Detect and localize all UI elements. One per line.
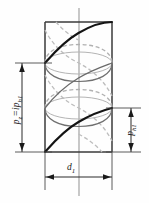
pitch-label: ph1 <box>120 117 144 143</box>
pitch-arrow-top <box>128 109 134 117</box>
pitch-label-text: ph1 <box>126 124 138 136</box>
lead-label-text: pz = iph1 <box>12 96 24 125</box>
diameter-label: d1 <box>67 163 75 175</box>
lead-arrow-bottom <box>19 143 25 151</box>
lead-arrow-top <box>19 64 25 72</box>
diameter-arrow-left <box>46 174 54 180</box>
pitch-arrow-bottom <box>128 143 134 151</box>
helix-rear-strand-top-tail <box>56 22 79 40</box>
diameter-arrow-right <box>103 174 111 180</box>
helix-lead-figure: pz = iph1 ph1 d1 <box>0 0 149 203</box>
diameter-label-text: d1 <box>67 162 75 172</box>
lead-label: pz = iph1 <box>0 96 44 124</box>
helix-rear-strand-bottom-tail <box>79 134 103 152</box>
